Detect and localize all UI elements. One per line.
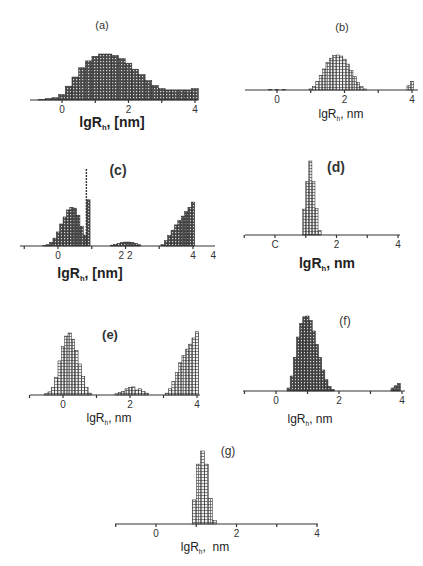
histogram-bar	[312, 182, 315, 235]
tick-label: 0	[153, 528, 159, 539]
histogram-bar	[85, 388, 88, 395]
histogram-bar	[319, 357, 322, 391]
tick-label: 4	[210, 250, 216, 261]
tick-label: 4	[399, 395, 405, 406]
tick-label: 0	[273, 395, 279, 406]
histogram-bar	[72, 77, 79, 100]
panel-title: (a)	[95, 19, 108, 31]
tick-label: 2	[334, 239, 340, 250]
figure-panels: 024(a)lgRh, [nm] 024(b)lgRh, nm 02 244(c…	[0, 0, 423, 566]
histogram-bar	[339, 56, 342, 90]
histogram-bar	[179, 363, 182, 395]
histogram-bar	[185, 349, 188, 395]
tick-label: 2	[336, 395, 342, 406]
histogram-bar	[303, 317, 306, 391]
histogram-bar	[296, 337, 299, 391]
panel-a: 024(a)lgRh, [nm]	[30, 19, 198, 132]
histogram-bar	[312, 331, 315, 391]
histogram-bar	[185, 212, 188, 246]
x-axis-label: lgRh, nm	[299, 255, 355, 273]
histogram-bar	[92, 56, 99, 100]
histogram-bar	[59, 94, 66, 100]
panel-title: (b)	[335, 21, 348, 33]
histogram-bar	[73, 208, 76, 246]
histogram-bar	[204, 464, 208, 524]
histogram-bar	[300, 324, 303, 392]
panel-title: (e)	[102, 327, 118, 342]
histogram-bar	[178, 90, 185, 100]
histogram-bar	[195, 332, 198, 395]
tick-label: 4	[190, 250, 196, 261]
histogram-bar	[138, 389, 141, 395]
histogram-bar	[182, 355, 185, 395]
histogram-bar	[200, 451, 204, 524]
panel-b: 024(b)lgRh, nm	[245, 21, 418, 122]
histogram-bar	[105, 54, 112, 100]
histogram-bar	[306, 316, 309, 391]
histogram-bar	[99, 54, 106, 100]
tick-label: 2	[342, 94, 348, 105]
histogram-bar	[309, 321, 312, 392]
tick-label: 4	[314, 528, 320, 539]
histogram-bar	[138, 75, 145, 100]
histogram-bar	[85, 61, 92, 100]
tick-label: 0	[59, 104, 65, 115]
panel-c: 02 244(c)lgRh, [nm]	[20, 162, 216, 283]
tick-label: 4	[395, 239, 401, 250]
panel-f: 024(f)lgRh, nm	[243, 314, 405, 427]
histogram-bar	[333, 56, 336, 90]
histogram-bar	[172, 90, 179, 100]
tick-label: 2	[234, 528, 240, 539]
histogram-bar	[191, 202, 194, 246]
histogram-bar	[53, 238, 56, 246]
histogram-bar	[164, 241, 167, 246]
histogram-bar	[75, 350, 78, 395]
histogram-bar	[309, 161, 312, 235]
histogram-bar	[181, 216, 184, 246]
tick-label: 0	[60, 399, 66, 410]
histogram-bar	[343, 59, 346, 90]
histogram-bar	[350, 70, 353, 90]
histogram-bar	[132, 387, 135, 395]
histogram-bar	[192, 89, 199, 101]
histogram-bar	[87, 200, 90, 246]
histogram-bar	[145, 81, 152, 100]
x-axis-label: lgRh, nm	[181, 540, 229, 555]
histogram-bar	[80, 226, 83, 246]
tick-label: 2	[127, 399, 133, 410]
histogram-bar	[323, 69, 326, 90]
histogram-bar	[55, 378, 58, 395]
histogram-bar	[61, 347, 64, 395]
histogram-bar	[152, 85, 159, 100]
histogram-bar	[77, 215, 80, 246]
histogram-bar	[196, 464, 200, 524]
x-axis-label: lgRh, [nm]	[57, 265, 122, 283]
x-axis-label: lgRh, nm	[318, 107, 363, 122]
panel-title: (g)	[221, 444, 236, 458]
histogram-bar	[68, 333, 71, 395]
histogram-bar	[165, 90, 172, 100]
histogram-bar	[174, 225, 177, 246]
histogram-bar	[58, 361, 61, 395]
histogram-bar	[407, 86, 410, 90]
histogram-bar	[306, 182, 309, 235]
histogram-bar	[192, 338, 195, 395]
histogram-bar	[353, 77, 356, 90]
tick-label: 0	[55, 250, 61, 261]
histogram-bar	[169, 389, 172, 395]
x-axis-label: lgRh, [nm]	[79, 114, 144, 132]
histogram-bar	[328, 387, 331, 392]
tick-label: 4	[192, 104, 198, 115]
histogram-bar	[175, 373, 178, 395]
histogram-bar	[192, 500, 196, 524]
histogram-bar	[60, 224, 63, 246]
histogram-bar	[70, 207, 73, 246]
histogram-bar	[208, 498, 212, 524]
histogram-bar	[290, 376, 293, 391]
panel-e: 024(e)lgRh, nm	[30, 327, 201, 426]
histogram-bar	[356, 82, 359, 90]
histogram-bar	[293, 357, 296, 391]
histogram-bar	[119, 59, 126, 100]
histogram-bar	[329, 59, 332, 91]
tick-label: C	[271, 239, 278, 250]
